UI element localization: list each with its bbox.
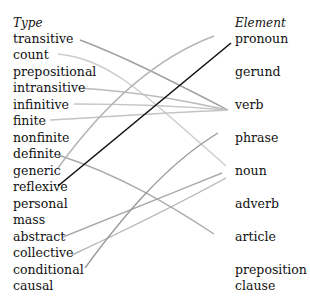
right-item-preposition: preposition (235, 262, 307, 277)
left-item-abstract: abstract (13, 229, 65, 244)
left-item-infinitive: infinitive (13, 97, 69, 112)
right-item-gerund: gerund (235, 64, 280, 79)
left-header: Type (13, 16, 43, 30)
left-item-generic: generic (13, 163, 61, 178)
right-item-article: article (235, 229, 276, 244)
left-item-causal: causal (13, 278, 53, 293)
right-item-verb: verb (235, 97, 263, 112)
left-item-count: count (13, 47, 49, 62)
left-item-definite: definite (13, 146, 61, 161)
link-transitive-verb (80, 40, 228, 110)
right-header: Element (235, 16, 286, 30)
left-item-nonfinite: nonfinite (13, 130, 69, 145)
right-item-pronoun: pronoun (235, 31, 288, 46)
right-item-adverb: adverb (235, 196, 279, 211)
left-item-transitive: transitive (13, 31, 73, 46)
right-item-noun: noun (235, 163, 267, 178)
left-item-prepositional: prepositional (13, 64, 96, 79)
left-item-personal: personal (13, 196, 68, 211)
right-item-clause: clause (235, 278, 275, 293)
left-item-conditional: conditional (13, 262, 84, 277)
right-item-phrase: phrase (235, 130, 278, 145)
left-item-collective: collective (13, 245, 73, 260)
link-abstract-noun (63, 173, 222, 237)
link-conditional-phrase (85, 133, 218, 268)
left-item-mass: mass (13, 212, 45, 227)
left-item-reflexive: reflexive (13, 179, 68, 194)
left-item-finite: finite (13, 113, 46, 128)
left-item-intransitive: intransitive (13, 80, 85, 95)
